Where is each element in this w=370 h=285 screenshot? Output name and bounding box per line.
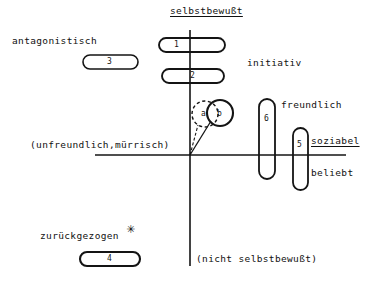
circle-label-a: a [201,110,206,118]
axis-label-bottom: (nicht selbstbewußt) [196,254,317,264]
axis-label-left: (unfreundlich,mürrisch) [30,140,170,150]
marker-capsule-1[interactable] [159,38,225,52]
diagram-canvas: selbstbewußt (nicht selbstbewußt) (unfre… [0,0,370,285]
vector-to-circle-a [190,125,198,155]
label-zurueckgezogen: zurückgezogen [40,231,119,241]
marker-capsule-5[interactable] [293,128,308,190]
marker-label-3: 3 [107,58,112,66]
axis-label-right: soziabel [311,136,360,146]
label-freundlich: freundlich [281,100,342,110]
marker-capsule-6[interactable] [259,99,275,179]
marker-label-2: 2 [190,72,195,80]
marker-label-1: 1 [174,41,179,49]
label-antagonistisch: antagonistisch [12,36,97,46]
circle-label-b: b [217,110,222,118]
marker-label-4: 4 [107,255,112,263]
label-beliebt: beliebt [311,168,354,178]
marker-label-6: 6 [264,115,269,123]
axis-label-top: selbstbewußt [170,6,243,16]
label-initiativ: initiativ [247,58,302,68]
circles-group [192,100,233,127]
asterisk-mark: ✳ [126,224,135,235]
marker-label-5: 5 [297,141,302,149]
